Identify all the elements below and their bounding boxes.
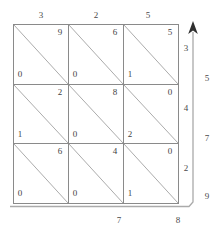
cell-lower-r1c0: 1: [15, 130, 25, 139]
cell-lower-r1c1: 0: [70, 130, 80, 139]
cell-upper-r0c0: 9: [55, 28, 65, 37]
cell-upper-r0c1: 6: [110, 28, 120, 37]
top-label-2: 5: [141, 11, 155, 20]
lattice-multiplication-figure: 3 2 5 3 4 2 5 7 9 7 8 9 0 6 0 5 1 2 1 8 …: [0, 0, 219, 236]
right-inner-label-1: 4: [180, 104, 192, 113]
cell-upper-r2c2: 0: [165, 147, 175, 156]
top-label-0: 3: [34, 11, 48, 20]
bottom-label-1: 8: [171, 216, 185, 225]
right-inner-label-2: 2: [180, 164, 192, 173]
cell-upper-r2c1: 4: [110, 147, 120, 156]
right-outer-label-0: 5: [201, 74, 213, 83]
cell-lower-r2c2: 1: [125, 189, 135, 198]
cell-lower-r2c1: 0: [70, 189, 80, 198]
right-inner-label-0: 3: [180, 44, 192, 53]
right-outer-label-2: 9: [201, 192, 213, 201]
cell-lower-r0c1: 0: [70, 70, 80, 79]
top-label-1: 2: [89, 11, 103, 20]
cell-lower-r0c2: 1: [125, 70, 135, 79]
right-outer-label-1: 7: [201, 134, 213, 143]
cell-diagonals: [14, 25, 178, 203]
bottom-label-0: 7: [112, 216, 126, 225]
cell-upper-r1c0: 2: [55, 88, 65, 97]
cell-upper-r1c1: 8: [110, 88, 120, 97]
cell-upper-r2c0: 6: [55, 147, 65, 156]
cell-upper-r1c2: 0: [165, 88, 175, 97]
cell-lower-r1c2: 2: [125, 130, 135, 139]
cell-upper-r0c2: 5: [165, 28, 175, 37]
cell-lower-r2c0: 0: [15, 189, 25, 198]
cell-lower-r0c0: 0: [15, 70, 25, 79]
